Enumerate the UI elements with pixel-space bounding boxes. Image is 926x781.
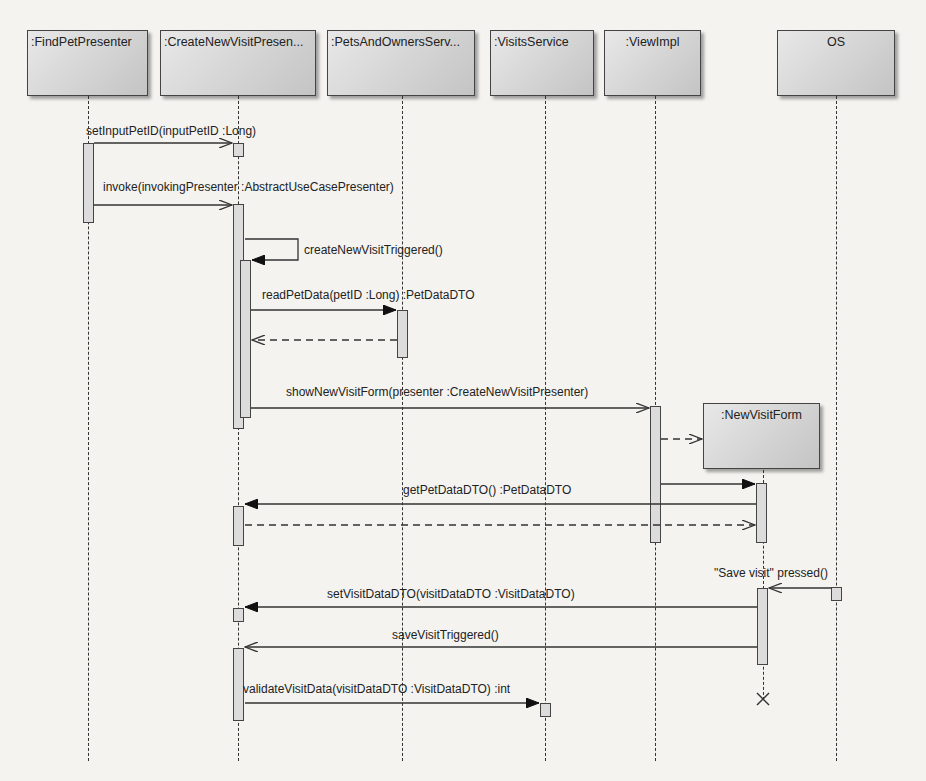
message-setinputpetid: setInputPetID(inputPetID :Long) — [86, 124, 256, 138]
message-savevisittriggered: saveVisitTriggered() — [392, 628, 499, 642]
message-createnewvisittriggered: createNewVisitTriggered() — [304, 243, 443, 257]
message-validatevisitdata: validateVisitData(visitDataDTO :VisitDat… — [243, 682, 510, 696]
message-setvisitdatadto: setVisitDataDTO(visitDataDTO :VisitDataD… — [327, 587, 575, 601]
message-readpetdata: readPetData(petID :Long) :PetDataDTO — [262, 288, 475, 302]
message-getpetdatadto: getPetDataDTO() :PetDataDTO — [403, 483, 571, 497]
message-invoke: invoke(invokingPresenter :AbstractUseCas… — [103, 180, 394, 194]
message-shownewvisitform: showNewVisitForm(presenter :CreateNewVis… — [286, 385, 588, 399]
message-save-visit-pressed: "Save visit" pressed() — [714, 566, 828, 580]
